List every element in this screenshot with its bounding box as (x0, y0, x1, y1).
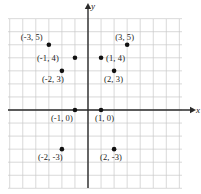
data-point (47, 42, 52, 47)
point-label: (-2, -3) (38, 153, 63, 162)
grid-lines (8, 19, 182, 189)
point-label: (1, 0) (95, 114, 114, 123)
data-point (99, 108, 104, 113)
data-point (125, 42, 130, 47)
data-point (99, 56, 104, 61)
point-label: (2, -3) (100, 153, 122, 162)
point-label: (-1, 4) (37, 54, 59, 63)
coordinate-plane-figure: (-3, 5)(3, 5)(-1, 4)(1, 4)(-2, 3)(2, 3)(… (0, 0, 201, 194)
data-point (112, 69, 117, 74)
x-axis-label: x (196, 106, 200, 115)
point-label: (-3, 5) (21, 33, 43, 42)
point-label: (1, 4) (106, 54, 125, 63)
data-point (60, 147, 65, 152)
point-label: (-2, 3) (42, 75, 64, 84)
data-point (60, 69, 65, 74)
data-point (73, 56, 78, 61)
coordinate-plane-canvas (0, 0, 201, 194)
data-point (73, 108, 78, 113)
point-label: (3, 5) (115, 33, 134, 42)
point-label: (2, 3) (104, 75, 123, 84)
point-label: (-1, 0) (51, 114, 73, 123)
data-point (112, 147, 117, 152)
y-axis-label: y (91, 2, 95, 11)
